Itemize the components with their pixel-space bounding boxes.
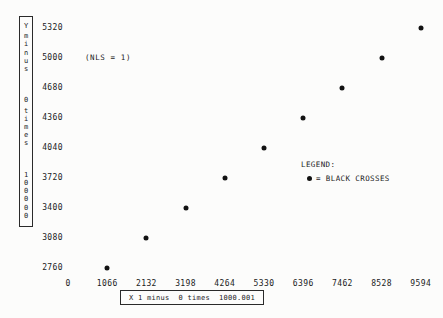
y-scale-text-group: 0times — [24, 96, 28, 147]
y-axis-tick-label: 4040 — [42, 143, 63, 152]
data-point-dot — [418, 25, 423, 30]
y-axis-tick-label: 5320 — [42, 23, 63, 32]
nls-annotation: (NLS = 1) — [85, 53, 131, 62]
x-axis-tick-label: 5330 — [254, 279, 275, 288]
x-axis-tick-label: 3198 — [175, 279, 196, 288]
data-point-dot — [144, 235, 149, 240]
data-point-dot — [262, 145, 267, 150]
data-point-dot — [379, 55, 384, 60]
x-axis-tick-label: 6396 — [293, 279, 314, 288]
x-axis-tick-label: 0 — [65, 279, 70, 288]
x-scale-part-2: 0 times — [178, 294, 210, 302]
y-axis-scale-box: Yminus0times100000 — [19, 16, 33, 227]
data-point-dot — [105, 265, 110, 270]
black-dot-icon — [307, 176, 312, 181]
y-scale-text-group: 100000 — [24, 171, 28, 220]
scatter-plot-page: Yminus0times100000 276030803400372040404… — [0, 0, 443, 318]
legend-title: LEGEND: — [301, 160, 390, 169]
legend-entry-row: = BLACK CROSSES — [307, 174, 390, 183]
x-axis-tick-label: 1066 — [97, 279, 118, 288]
x-axis-tick-label: 8528 — [371, 279, 392, 288]
y-axis-tick-label: 3720 — [42, 173, 63, 182]
data-point-dot — [301, 115, 306, 120]
y-axis-tick-label: 5000 — [42, 53, 63, 62]
x-axis-tick-label: 9594 — [410, 279, 431, 288]
data-point-dot — [183, 205, 188, 210]
y-scale-text-group: Yminus — [24, 22, 28, 73]
y-axis-tick-label: 3080 — [42, 233, 63, 242]
x-scale-part-1: X 1 minus — [129, 294, 170, 302]
x-axis-tick-label: 2132 — [136, 279, 157, 288]
x-axis-scale-box: X 1 minus 0 times 1000.001 — [120, 290, 264, 305]
x-axis-tick-label: 4264 — [214, 279, 235, 288]
legend: LEGEND: = BLACK CROSSES — [301, 160, 390, 183]
x-axis-tick-label: 7462 — [332, 279, 353, 288]
y-axis-tick-label: 3400 — [42, 203, 63, 212]
data-point-dot — [340, 85, 345, 90]
x-scale-part-3: 1000.001 — [219, 294, 255, 302]
legend-entry-label: = BLACK CROSSES — [316, 174, 390, 183]
data-point-dot — [222, 175, 227, 180]
y-axis-tick-label: 4360 — [42, 113, 63, 122]
y-axis-tick-label: 2760 — [42, 263, 63, 272]
y-axis-tick-label: 4680 — [42, 83, 63, 92]
